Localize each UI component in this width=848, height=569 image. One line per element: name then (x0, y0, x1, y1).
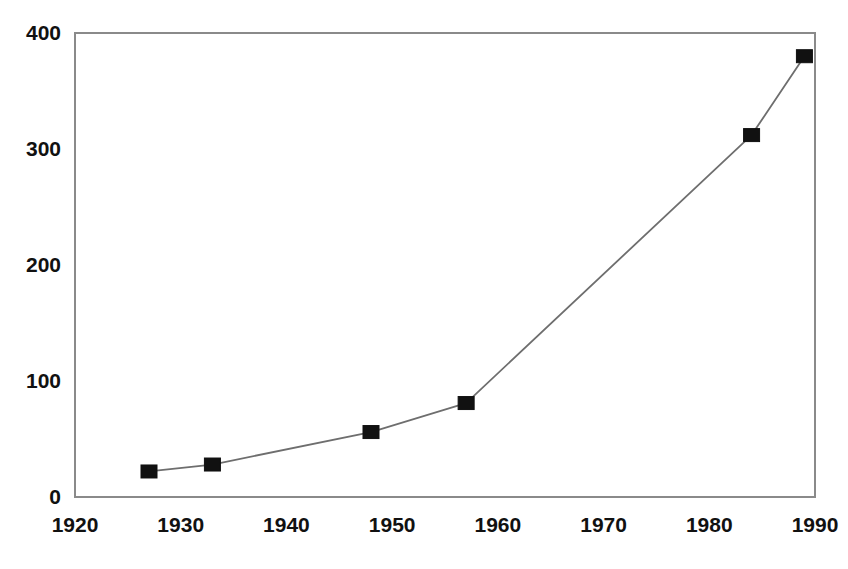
data-point-marker (141, 465, 157, 478)
y-axis-tick-label: 200 (26, 253, 61, 276)
x-axis-tick-label: 1970 (580, 513, 627, 536)
data-point-marker (744, 129, 760, 142)
x-axis-tick-label: 1930 (157, 513, 204, 536)
y-axis-tick-label: 300 (26, 137, 61, 160)
x-axis-tick-label: 1940 (263, 513, 310, 536)
plot-area (75, 33, 815, 497)
data-point-marker (204, 458, 220, 471)
y-axis-tick-label: 100 (26, 369, 61, 392)
data-point-marker (363, 426, 379, 439)
y-axis-tick-label: 400 (26, 21, 61, 44)
x-axis-tick-label: 1990 (792, 513, 839, 536)
data-point-marker (458, 397, 474, 410)
x-axis-tick-label: 1980 (686, 513, 733, 536)
data-point-marker (796, 50, 812, 63)
line-chart: 0100200300400 19201930194019501960197019… (0, 0, 848, 569)
chart-container: 0100200300400 19201930194019501960197019… (0, 0, 848, 569)
y-axis-tick-label: 0 (49, 485, 61, 508)
x-axis-tick-label: 1960 (474, 513, 521, 536)
x-axis-tick-label: 1950 (369, 513, 416, 536)
x-axis-tick-label: 1920 (52, 513, 99, 536)
